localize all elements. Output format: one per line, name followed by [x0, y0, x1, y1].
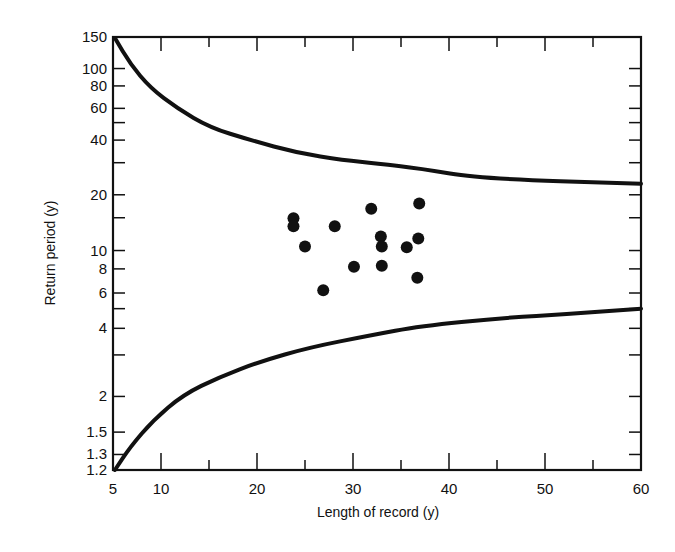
- y-tick-label: 20: [90, 186, 107, 203]
- y-tick-label: 4: [99, 319, 107, 336]
- y-tick-label: 2: [99, 387, 107, 404]
- return-period-chart: 5102030405060 150100806040201086421.51.3…: [0, 0, 675, 552]
- y-tick-label: 80: [90, 77, 107, 94]
- data-point: [411, 272, 423, 284]
- y-tick-label: 1.5: [86, 423, 107, 440]
- x-tick-label: 60: [633, 480, 650, 497]
- data-point: [375, 230, 387, 242]
- data-point: [413, 198, 425, 210]
- x-tick-label: 50: [537, 480, 554, 497]
- y-tick-label: 10: [90, 242, 107, 259]
- x-tick-label: 40: [441, 480, 458, 497]
- data-point: [299, 241, 311, 253]
- y-tick-label: 1.3: [86, 445, 107, 462]
- y-tick-label: 150: [82, 28, 107, 45]
- y-axis-title: Return period (y): [42, 200, 58, 305]
- x-tick-label: 30: [345, 480, 362, 497]
- x-tick-label: 5: [109, 480, 117, 497]
- y-tick-label: 1.2: [86, 461, 107, 478]
- y-tick-label: 60: [90, 99, 107, 116]
- data-point: [317, 284, 329, 296]
- x-axis-title: Length of record (y): [317, 504, 439, 520]
- x-tick-label: 20: [249, 480, 266, 497]
- data-point: [329, 220, 341, 232]
- data-point: [412, 232, 424, 244]
- y-tick-label: 40: [90, 131, 107, 148]
- y-tick-label: 100: [82, 60, 107, 77]
- y-tick-label: 6: [99, 284, 107, 301]
- data-point: [401, 241, 413, 253]
- data-point: [376, 241, 388, 253]
- data-point: [365, 203, 377, 215]
- data-point: [287, 220, 299, 232]
- data-point: [376, 260, 388, 272]
- data-point: [348, 261, 360, 273]
- y-tick-label: 8: [99, 260, 107, 277]
- x-tick-label: 10: [153, 480, 170, 497]
